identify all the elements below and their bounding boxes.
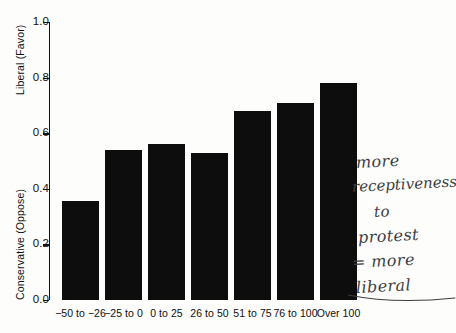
bar-neg25-to-0 (105, 150, 142, 300)
chart-screenshot: 1.0 0.8 0.6 0.4 0.2 0.0 (0, 0, 456, 333)
handwritten-underline (348, 292, 456, 306)
bar-neg50-to-neg26 (62, 201, 99, 300)
bar-76-to-100 (277, 103, 314, 300)
x-label-over-100: Over 100 (309, 307, 368, 319)
bar-over-100 (320, 83, 357, 300)
plot-area: 1.0 0.8 0.6 0.4 0.2 0.0 (0, 0, 456, 333)
bar-series (0, 0, 456, 333)
bar-0-to-25 (148, 144, 185, 300)
bar-26-to-50 (191, 153, 228, 300)
bar-51-to-75 (234, 111, 271, 300)
